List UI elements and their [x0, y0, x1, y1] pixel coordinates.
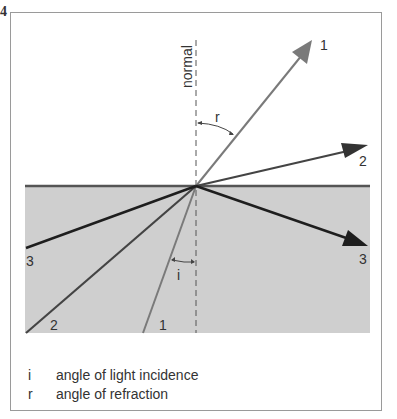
legend-symbol: r	[28, 386, 56, 402]
angle-i-label: i	[177, 267, 180, 283]
legend-item-refraction: rangle of refraction	[28, 386, 168, 402]
legend-symbol: i	[28, 367, 56, 383]
ray-2-bottom-label: 2	[50, 317, 58, 333]
ray-1-refracted	[196, 55, 302, 186]
legend-text: angle of refraction	[56, 386, 168, 402]
ray-1-top-label: 1	[320, 37, 328, 53]
ray-3-right-label: 3	[359, 251, 367, 267]
ray-2-refracted	[196, 150, 352, 186]
angle-r-arrow-tip	[197, 121, 202, 125]
ray-1-arrowhead	[292, 40, 312, 64]
angle-r-label: r	[215, 109, 220, 125]
ray-1-bottom-label: 1	[159, 317, 167, 333]
medium-region	[25, 186, 370, 333]
refraction-diagram: normal r i 1 2 3 3 2 1	[0, 0, 397, 419]
ray-2-top-label: 2	[359, 153, 367, 169]
ray-3-left-label: 3	[26, 253, 34, 269]
normal-label: normal	[179, 45, 195, 88]
legend-item-incidence: iangle of light incidence	[28, 367, 198, 383]
legend-text: angle of light incidence	[56, 367, 198, 383]
